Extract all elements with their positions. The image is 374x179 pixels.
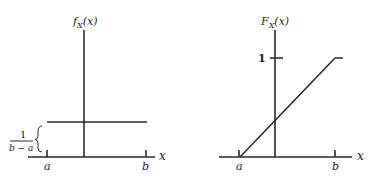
figure: fX(x) a b x 1 b − a FX(x) 1 a b x <box>0 0 374 179</box>
pdf-xlabel: x <box>159 149 166 163</box>
height-denominator: b − a <box>9 143 33 153</box>
cdf-tick-b-label: b <box>332 160 339 173</box>
cdf-tick-one-label: 1 <box>258 52 266 65</box>
cdf-ylabel: FX(x) <box>260 15 289 30</box>
cdf-tick-a-label: a <box>236 160 243 173</box>
cdf-xlabel: x <box>357 149 364 163</box>
cdf-line <box>240 58 343 157</box>
cdf-plot: FX(x) 1 a b x <box>219 15 364 173</box>
pdf-tick-b-label: b <box>142 160 149 173</box>
pdf-plot: fX(x) a b x 1 b − a <box>9 15 166 173</box>
brace-icon <box>35 126 42 152</box>
height-numerator: 1 <box>20 129 26 140</box>
pdf-ylabel: fX(x) <box>72 15 98 30</box>
pdf-tick-a-label: a <box>44 160 51 173</box>
